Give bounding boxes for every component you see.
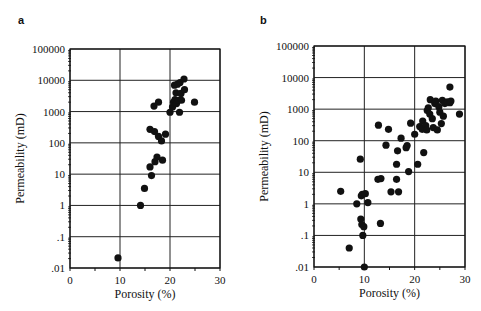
data-points [337,83,463,270]
data-point [404,142,411,149]
panel-a: a .01.11101001000100001000000102030Poros… [0,0,240,311]
data-point [440,113,447,120]
data-point [158,137,165,144]
data-point [155,99,162,106]
scatter-plot-a: .01.11101001000100001000000102030Porosit… [0,0,240,311]
y-tick-label: .1 [301,229,309,241]
y-tick-label: .1 [57,231,65,243]
y-minor-ticks [68,50,220,271]
y-tick-label: 1000 [287,103,310,115]
x-tick-label: 0 [311,273,317,285]
data-point [337,188,344,195]
x-tick-label: 20 [165,274,177,286]
data-point [359,232,366,239]
data-point [162,131,169,138]
data-point [438,120,445,127]
data-point [447,97,454,104]
data-point [414,161,421,168]
x-tick-label: 0 [67,274,73,286]
data-point [387,188,394,195]
data-point [385,126,392,133]
y-axis-title: Permeability (mD) [13,113,27,203]
data-point [393,161,400,168]
data-point [362,190,369,197]
data-point [394,147,401,154]
y-tick-label: .01 [295,261,309,273]
y-tick-label: 100000 [32,43,66,55]
data-point [364,199,371,206]
data-point [148,172,155,179]
data-point [393,176,400,183]
y-tick-label: 1000 [43,106,66,118]
x-tick-labels: 0102030 [311,273,471,285]
data-point [377,175,384,182]
x-tick-label: 10 [359,273,371,285]
data-point [191,99,198,106]
data-point [137,202,144,209]
scatter-plot-b: .01.11101001000100001000000102030Porosit… [240,0,481,311]
data-point [181,86,188,93]
grid [70,49,220,268]
data-point [446,83,453,90]
data-point [377,220,384,227]
y-axis-title: Permeability (mD) [257,111,271,201]
panel-b: b .01.11101001000100001000000102030Poros… [240,0,481,311]
y-tick-label: 10 [298,166,310,178]
y-tick-label: 1 [60,199,66,211]
data-point [178,97,185,104]
data-point [429,115,436,122]
data-point [114,254,121,261]
data-point [405,168,412,175]
x-axis-title: Porosity (%) [115,287,176,301]
x-tick-label: 10 [115,274,127,286]
data-point [434,126,441,133]
data-point [397,135,404,142]
data-point [357,156,364,163]
data-point [176,109,183,116]
data-point [159,157,166,164]
y-tick-label: 1 [304,198,310,210]
y-tick-label: 10000 [282,72,310,84]
y-tick-label: 100000 [276,40,310,52]
data-point [180,75,187,82]
y-tick-label: 100 [49,137,66,149]
data-point [382,142,389,149]
data-point [395,188,402,195]
plot-frame [314,46,465,267]
data-point [361,263,368,270]
data-point [456,110,463,117]
data-point [407,120,414,127]
y-tick-labels: .01.1110100100010000100000 [276,40,310,273]
x-axis-title: Porosity (%) [359,286,420,300]
data-point [423,126,430,133]
x-tick-label: 30 [215,274,227,286]
y-tick-label: .01 [51,262,65,274]
data-point [425,104,432,111]
data-point [346,244,353,251]
data-point [375,122,382,129]
y-tick-label: 10000 [38,74,66,86]
x-tick-label: 30 [460,273,472,285]
data-point [360,223,367,230]
x-tick-label: 20 [409,273,421,285]
y-tick-label: 10 [54,168,66,180]
y-minor-ticks [312,47,465,270]
y-tick-labels: .01.1110100100010000100000 [32,43,66,274]
data-point [146,163,153,170]
data-point [420,149,427,156]
x-tick-labels: 0102030 [67,274,226,286]
data-point [141,185,148,192]
grid [314,46,465,267]
data-points [114,75,198,261]
plot-frame [70,49,220,268]
data-point [411,131,418,138]
y-tick-label: 100 [293,135,310,147]
data-point [353,200,360,207]
